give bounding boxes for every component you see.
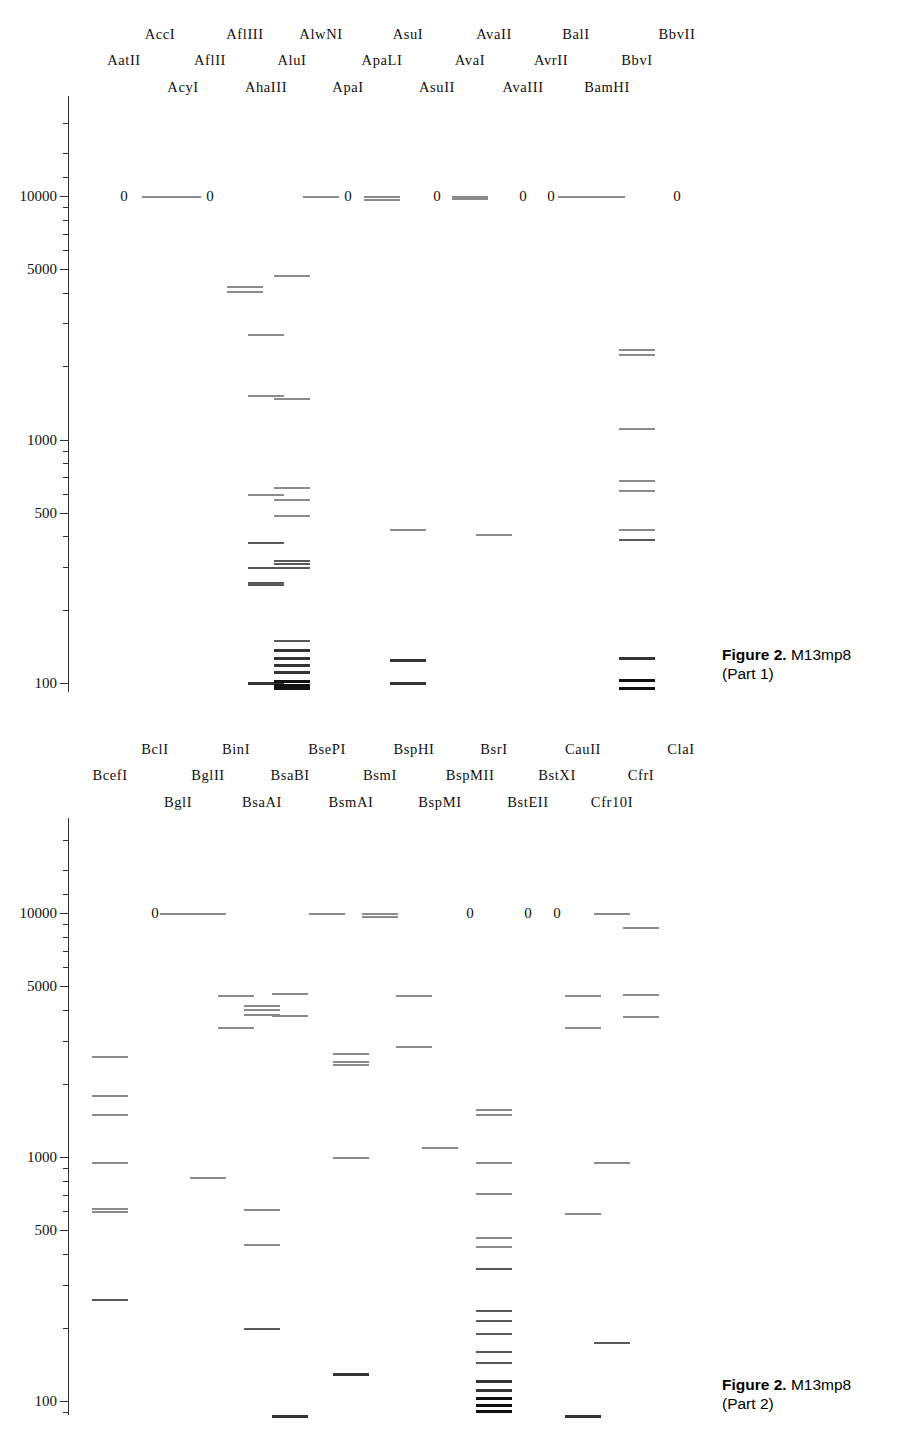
y-axis-line bbox=[68, 96, 69, 692]
dna-band bbox=[274, 563, 310, 565]
y-axis-minor-tick bbox=[63, 1041, 69, 1042]
y-axis-minor-tick bbox=[63, 463, 69, 464]
figure-caption-part1: Figure 2. M13mp8 (Part 1) bbox=[722, 645, 851, 683]
y-axis-minor-tick bbox=[63, 610, 69, 611]
dna-band bbox=[476, 1246, 512, 1248]
dna-band bbox=[476, 1397, 512, 1400]
dna-band bbox=[92, 1211, 128, 1213]
dna-band bbox=[476, 1380, 512, 1383]
dna-band bbox=[476, 1114, 512, 1116]
dna-band bbox=[227, 291, 263, 293]
y-axis-minor-tick bbox=[63, 123, 69, 124]
zero-cut-marker-asuii: 0 bbox=[433, 188, 441, 205]
dna-band bbox=[333, 1064, 369, 1066]
dna-band bbox=[244, 1244, 280, 1246]
dna-band bbox=[244, 1328, 280, 1330]
dna-band bbox=[274, 560, 310, 562]
dna-band bbox=[390, 659, 426, 662]
dna-band bbox=[218, 995, 254, 997]
dna-band bbox=[92, 1162, 128, 1164]
dna-band bbox=[227, 286, 263, 288]
y-axis-major-tick bbox=[60, 269, 69, 270]
y-axis-minor-tick bbox=[63, 894, 69, 895]
y-axis-minor-tick bbox=[63, 250, 69, 251]
dna-band bbox=[390, 682, 426, 685]
dna-band bbox=[248, 395, 284, 397]
y-axis-minor-tick bbox=[63, 1195, 69, 1196]
y-axis-tick-label: 100 bbox=[0, 675, 57, 692]
y-axis-minor-tick bbox=[63, 937, 69, 938]
dna-band bbox=[623, 927, 659, 929]
dna-band bbox=[476, 1410, 512, 1413]
zero-cut-marker-bcli: 0 bbox=[151, 905, 159, 922]
y-axis-major-tick bbox=[60, 513, 69, 514]
y-axis-minor-tick bbox=[63, 967, 69, 968]
y-axis-minor-tick bbox=[63, 1211, 69, 1212]
dna-band bbox=[272, 993, 308, 995]
dna-band bbox=[594, 1162, 630, 1164]
y-axis-tick-label: 5000 bbox=[0, 978, 57, 995]
dna-band bbox=[272, 1415, 308, 1418]
y-axis-tick-label: 10000 bbox=[0, 905, 57, 922]
y-axis-minor-tick bbox=[63, 494, 69, 495]
y-axis-minor-tick bbox=[63, 1181, 69, 1182]
dna-band bbox=[274, 687, 310, 690]
dna-band bbox=[333, 1061, 369, 1063]
y-axis-tick-label: 100 bbox=[0, 1393, 57, 1410]
dna-band bbox=[92, 1114, 128, 1116]
dna-band bbox=[303, 196, 339, 198]
dna-band bbox=[333, 1053, 369, 1055]
dna-band bbox=[92, 1299, 128, 1301]
dna-band bbox=[619, 354, 655, 356]
dna-band bbox=[565, 1213, 601, 1215]
dna-band bbox=[92, 1095, 128, 1097]
dna-band bbox=[396, 1046, 432, 1048]
figure-panel-part1: AatIIAccIAcyIAflIIAflIIIAhaIIIAluIAlwNIA… bbox=[0, 0, 921, 715]
dna-band bbox=[623, 994, 659, 996]
y-axis-minor-tick bbox=[63, 1285, 69, 1286]
dna-band bbox=[619, 657, 655, 660]
dna-band bbox=[476, 1193, 512, 1195]
y-axis-minor-tick bbox=[63, 477, 69, 478]
y-axis-tick-label: 500 bbox=[0, 505, 57, 522]
dna-band bbox=[476, 534, 512, 536]
y-axis-tick-label: 10000 bbox=[0, 188, 57, 205]
dna-band bbox=[619, 428, 655, 430]
dna-band bbox=[274, 515, 310, 517]
dna-band bbox=[274, 649, 310, 652]
dna-band bbox=[476, 1310, 512, 1312]
y-axis-minor-tick bbox=[63, 366, 69, 367]
y-axis-tick-label: 1000 bbox=[0, 1149, 57, 1166]
y-axis-minor-tick bbox=[63, 293, 69, 294]
y-axis-major-tick bbox=[60, 196, 69, 197]
y-axis-minor-tick bbox=[63, 536, 69, 537]
y-axis-minor-tick bbox=[63, 924, 69, 925]
dna-band bbox=[594, 913, 630, 915]
dna-band bbox=[476, 1237, 512, 1239]
y-axis-minor-tick bbox=[63, 207, 69, 208]
y-axis-tick-label: 5000 bbox=[0, 261, 57, 278]
y-axis-minor-tick bbox=[63, 1010, 69, 1011]
dna-band bbox=[476, 1351, 512, 1353]
dna-band bbox=[619, 349, 655, 351]
gel-plot-part2: 10000500010005001000000 bbox=[0, 715, 921, 1444]
dna-band bbox=[248, 334, 284, 336]
dna-band bbox=[619, 539, 655, 541]
y-axis-minor-tick bbox=[63, 153, 69, 154]
y-axis-minor-tick bbox=[63, 177, 69, 178]
dna-band bbox=[476, 1320, 512, 1322]
caption-figure-number: Figure 2. bbox=[722, 1376, 787, 1393]
dna-band bbox=[619, 490, 655, 492]
dna-band bbox=[190, 1177, 226, 1179]
dna-band bbox=[476, 1268, 512, 1270]
y-axis-minor-tick bbox=[63, 1254, 69, 1255]
dna-band bbox=[248, 494, 284, 496]
y-axis-major-tick bbox=[60, 1157, 69, 1158]
zero-cut-marker-bstxi: 0 bbox=[553, 905, 561, 922]
zero-cut-marker-bspmii: 0 bbox=[466, 905, 474, 922]
y-axis-tick-label: 500 bbox=[0, 1222, 57, 1239]
dna-band bbox=[274, 671, 310, 674]
gel-plot-part1: 10000500010005001000000000 bbox=[0, 0, 921, 715]
zero-cut-marker-apai: 0 bbox=[344, 188, 352, 205]
y-axis-minor-tick bbox=[63, 951, 69, 952]
